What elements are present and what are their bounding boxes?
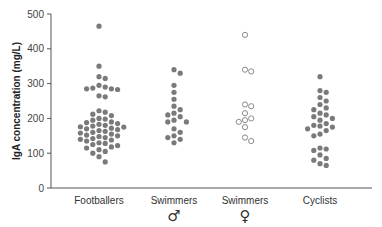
data-point (115, 87, 120, 92)
data-point (103, 141, 108, 146)
data-point (305, 126, 310, 131)
data-point (84, 120, 89, 125)
data-point (324, 156, 329, 161)
data-point (311, 107, 316, 112)
data-point (115, 143, 120, 148)
data-point (109, 126, 114, 131)
data-point (178, 130, 183, 135)
data-point (171, 104, 176, 109)
data-point (317, 118, 322, 123)
data-point (78, 130, 83, 135)
data-point (330, 116, 335, 121)
data-point (96, 154, 101, 159)
data-point (115, 127, 120, 132)
y-axis-title: IgA concentration (mg/L) (11, 42, 22, 160)
data-point (236, 119, 241, 124)
data-point (311, 114, 316, 119)
data-point (109, 119, 114, 124)
y-tick-label: 500 (27, 9, 44, 20)
data-point (78, 137, 83, 142)
data-point (311, 148, 316, 153)
data-point (317, 131, 322, 136)
data-point (178, 107, 183, 112)
data-point (242, 125, 247, 130)
data-point (249, 116, 254, 121)
data-point (96, 116, 101, 121)
male-symbol-icon: ♂ (167, 207, 180, 225)
data-point (171, 133, 176, 138)
data-point (103, 159, 108, 164)
data-point (242, 102, 247, 107)
data-point (96, 64, 101, 69)
data-point (103, 116, 108, 121)
data-point (90, 142, 95, 147)
data-point (311, 133, 316, 138)
data-point (249, 69, 254, 74)
data-point (96, 128, 101, 133)
y-tick-label: 300 (27, 78, 44, 89)
y-axis: 0100200300400500 (27, 9, 51, 194)
data-point (90, 118, 95, 123)
data-point (96, 134, 101, 139)
data-point (90, 86, 95, 91)
data-point (324, 90, 329, 95)
data-point (96, 140, 101, 145)
data-point (90, 123, 95, 128)
data-point (178, 114, 183, 119)
data-point (317, 95, 322, 100)
data-point (96, 83, 101, 88)
data-point (171, 97, 176, 102)
data-point (330, 125, 335, 130)
data-point (109, 137, 114, 142)
data-point (317, 145, 322, 150)
data-point (242, 111, 247, 116)
data-point (324, 128, 329, 133)
data-point (103, 123, 108, 128)
data-point (317, 102, 322, 107)
data-point (242, 67, 247, 72)
data-point (249, 104, 254, 109)
data-point (324, 105, 329, 110)
data-point (90, 151, 95, 156)
data-point (90, 130, 95, 135)
data-point (96, 74, 101, 79)
data-point (317, 123, 322, 128)
data-point (242, 32, 247, 37)
data-point (115, 121, 120, 126)
data-point (90, 136, 95, 141)
data-point (96, 122, 101, 127)
data-point (78, 124, 83, 129)
data-point (121, 125, 126, 130)
data-point (165, 112, 170, 117)
data-point (103, 76, 108, 81)
data-point (311, 123, 316, 128)
data-point (115, 133, 120, 138)
category-label: Swimmers (222, 195, 269, 206)
data-point (109, 144, 114, 149)
data-point (96, 108, 101, 113)
data-point (165, 119, 170, 124)
data-point (242, 135, 247, 140)
category-label: Swimmers (151, 195, 198, 206)
data-point (184, 119, 189, 124)
data-point (109, 131, 114, 136)
data-point (324, 112, 329, 117)
data-point (317, 152, 322, 157)
chart-canvas: 0100200300400500 FootballersSwimmers♂Swi… (0, 0, 382, 227)
data-point (109, 86, 114, 91)
data-point (103, 135, 108, 140)
data-point (324, 121, 329, 126)
data-point (178, 71, 183, 76)
data-point (317, 88, 322, 93)
data-point (171, 111, 176, 116)
y-tick-label: 200 (27, 113, 44, 124)
data-points (78, 24, 335, 168)
data-point (171, 118, 176, 123)
data-point (103, 129, 108, 134)
category-label: Footballers (74, 195, 123, 206)
data-point (84, 138, 89, 143)
data-point (317, 111, 322, 116)
data-point (103, 110, 108, 115)
data-point (317, 161, 322, 166)
x-axis: FootballersSwimmers♂Swimmers♀Cyclists (51, 188, 372, 225)
